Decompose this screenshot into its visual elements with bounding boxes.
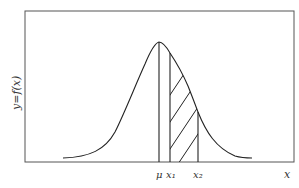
bell-curve xyxy=(63,42,252,158)
x1-label: x₁ xyxy=(166,169,176,180)
y-axis-label: y=f(x) xyxy=(10,76,23,111)
x-axis-label: x xyxy=(284,168,291,181)
normal-distribution-diagram: y=f(x) μ x₁ x₂ x xyxy=(0,0,299,188)
mu-label: μ xyxy=(156,169,163,180)
x2-label: x₂ xyxy=(193,169,203,180)
